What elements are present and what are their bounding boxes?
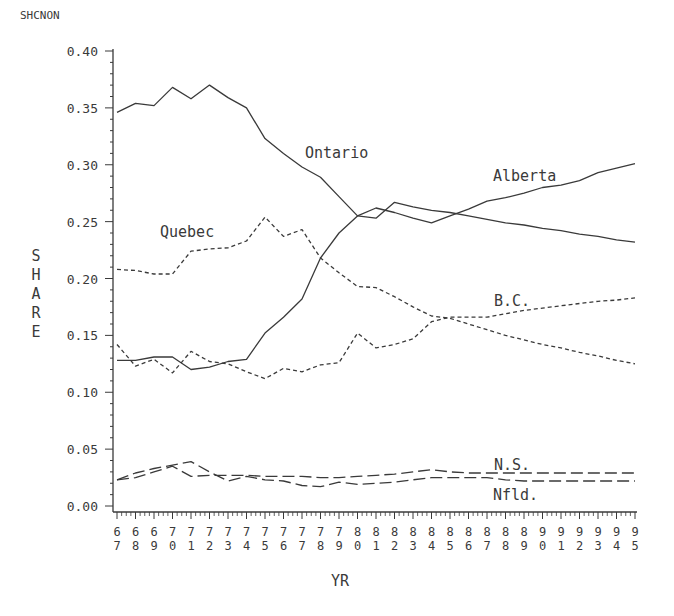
x-tick-label-bottom: 1 [557,539,564,553]
x-tick-label-top: 9 [613,525,620,539]
x-tick-label-bottom: 9 [520,539,527,553]
x-tick-label-top: 8 [354,525,361,539]
x-tick-label-top: 6 [113,525,120,539]
x-tick-label-bottom: 3 [224,539,231,553]
x-tick-label-bottom: 7 [298,539,305,553]
x-tick-label-top: 8 [428,525,435,539]
x-tick-label-bottom: 0 [539,539,546,553]
x-tick-label-bottom: 0 [354,539,361,553]
x-tick-label-bottom: 4 [428,539,435,553]
x-tick-label-top: 9 [594,525,601,539]
x-tick-label-top: 8 [465,525,472,539]
x-tick-label-top: 9 [631,525,638,539]
x-tick-label-top: 8 [483,525,490,539]
x-tick-label-bottom: 8 [502,539,509,553]
svg-text:R: R [31,304,41,322]
x-tick-label-top: 7 [280,525,287,539]
series-line-ns [117,466,635,480]
series-label: Ontario [305,144,368,162]
x-tick-label-top: 8 [409,525,416,539]
corner-label: SHCNON [20,9,60,22]
x-tick-label-top: 9 [576,525,583,539]
x-tick-label-top: 9 [539,525,546,539]
x-tick-label-top: 7 [298,525,305,539]
x-tick-label-top: 7 [335,525,342,539]
y-tick-label: 0.10 [67,385,98,400]
x-tick-label-top: 7 [224,525,231,539]
x-axis-label: YR [331,572,350,590]
y-tick-label: 0.25 [67,215,98,230]
x-tick-label-bottom: 2 [391,539,398,553]
series-lines [117,85,635,487]
y-tick-label: 0.00 [67,499,98,514]
x-tick-label-top: 7 [169,525,176,539]
y-tick-label: 0.15 [67,328,98,343]
x-tick-label-top: 8 [520,525,527,539]
x-tick-label-bottom: 1 [187,539,194,553]
series-label: Alberta [493,167,556,185]
x-axis: 6768697071727374757677787980818283848586… [113,512,639,553]
y-axis: 0.000.050.100.150.200.250.300.350.40 [67,44,113,514]
x-tick-label-top: 7 [187,525,194,539]
x-tick-label-bottom: 5 [261,539,268,553]
series-label: B.C. [494,292,530,310]
x-tick-label-top: 8 [502,525,509,539]
x-tick-label-bottom: 3 [409,539,416,553]
x-tick-label-bottom: 1 [372,539,379,553]
x-tick-label-top: 7 [243,525,250,539]
x-tick-label-top: 7 [317,525,324,539]
x-tick-label-top: 8 [391,525,398,539]
series-label: Quebec [160,223,214,241]
x-tick-label-top: 7 [206,525,213,539]
x-tick-label-top: 6 [150,525,157,539]
x-tick-label-bottom: 2 [576,539,583,553]
series-line-nfld [117,462,635,487]
svg-text:H: H [31,266,40,284]
x-tick-label-bottom: 7 [483,539,490,553]
x-tick-label-bottom: 0 [169,539,176,553]
series-line-ontario [117,85,635,242]
x-tick-label-bottom: 9 [335,539,342,553]
x-tick-label-bottom: 4 [243,539,250,553]
x-tick-label-bottom: 7 [113,539,120,553]
series-line-alberta [117,164,635,370]
y-tick-label: 0.30 [67,158,98,173]
x-tick-label-bottom: 4 [613,539,620,553]
x-tick-label-bottom: 8 [317,539,324,553]
series-labels: OntarioAlbertaQuebecB.C.N.S.Nfld. [160,144,556,504]
x-tick-label-bottom: 2 [206,539,213,553]
series-label: N.S. [494,456,530,474]
y-axis-label: SHARE [31,247,41,341]
x-tick-label-top: 9 [557,525,564,539]
svg-text:S: S [31,247,40,265]
y-tick-label: 0.40 [67,44,98,59]
x-tick-label-bottom: 9 [150,539,157,553]
x-tick-label-bottom: 8 [132,539,139,553]
x-tick-label-bottom: 5 [446,539,453,553]
x-tick-label-bottom: 6 [465,539,472,553]
svg-text:E: E [31,323,40,341]
x-tick-label-bottom: 6 [280,539,287,553]
x-tick-label-bottom: 5 [631,539,638,553]
series-line-bc [117,298,635,379]
x-tick-label-top: 8 [446,525,453,539]
series-label: Nfld. [493,486,538,504]
x-tick-label-top: 7 [261,525,268,539]
x-tick-label-top: 8 [372,525,379,539]
x-tick-label-bottom: 3 [594,539,601,553]
line-chart: SHCNON 0.000.050.100.150.200.250.300.350… [0,0,674,616]
y-tick-label: 0.05 [67,442,98,457]
y-tick-label: 0.35 [67,101,98,116]
svg-text:A: A [31,285,40,303]
x-tick-label-top: 6 [132,525,139,539]
y-tick-label: 0.20 [67,272,98,287]
